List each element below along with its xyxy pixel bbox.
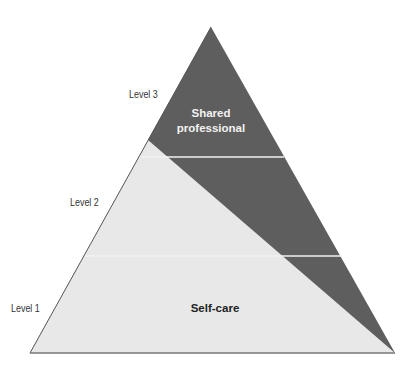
level-1-label: Level 1 <box>11 302 40 314</box>
shared-professional-label: Shared professional <box>170 106 252 136</box>
shared-professional-line1: Shared <box>170 106 252 121</box>
shared-professional-line2: professional <box>170 121 252 136</box>
level-2-label: Level 2 <box>70 196 99 208</box>
level-3-label: Level 3 <box>129 88 158 100</box>
self-care-label: Self-care <box>180 301 250 316</box>
